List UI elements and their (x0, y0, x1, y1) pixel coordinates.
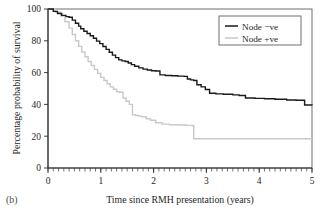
x-tick-label: 2 (151, 176, 156, 186)
survival-chart-figure: 020406080100 012345 Node −ve Node +ve Pe… (0, 0, 324, 213)
y-tick-label: 0 (36, 163, 41, 173)
x-axis-tick-labels: 012345 (46, 176, 315, 186)
y-tick-label: 100 (27, 4, 42, 14)
y-axis-tick-labels: 020406080100 (27, 4, 42, 173)
x-tick-label: 4 (257, 176, 262, 186)
y-axis-title: Percentage probability of survival (11, 21, 22, 154)
x-tick-label: 0 (46, 176, 51, 186)
plot-canvas: 020406080100 012345 Node −ve Node +ve Pe… (0, 0, 324, 213)
y-tick-label: 60 (32, 68, 42, 78)
y-tick-label: 80 (32, 36, 42, 46)
y-tick-label: 40 (32, 100, 42, 110)
y-tick-label: 20 (32, 132, 42, 142)
x-axis-title: Time since RMH presentation (years) (106, 194, 254, 206)
y-axis-ticks (44, 9, 48, 168)
legend-label-node-positive: Node +ve (242, 34, 278, 44)
x-tick-label: 3 (204, 176, 209, 186)
panel-label: (b) (6, 194, 17, 206)
x-tick-label: 5 (310, 176, 315, 186)
x-tick-label: 1 (98, 176, 103, 186)
legend-label-node-negative: Node −ve (242, 22, 278, 32)
legend: Node −ve Node +ve (219, 16, 301, 45)
